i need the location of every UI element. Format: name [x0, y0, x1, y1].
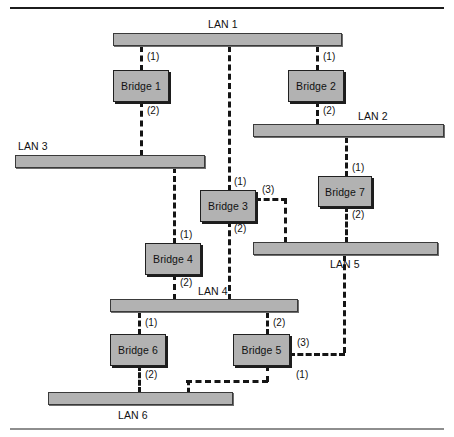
bridge-node-bridge3[interactable]: Bridge 3 — [200, 190, 256, 222]
bridge-label: Bridge 3 — [208, 200, 248, 212]
bridge-node-bridge4[interactable]: Bridge 4 — [145, 243, 201, 275]
port-label-bridge1-port1: (1) — [147, 51, 159, 62]
port-label-bridge3-port3: (3) — [262, 184, 274, 195]
top-divider-rule — [10, 7, 444, 9]
lan-label-lan4: LAN 4 — [198, 285, 228, 297]
lan-segment-lan5[interactable] — [253, 242, 438, 255]
bridge-label: Bridge 5 — [242, 344, 282, 356]
bridge-node-bridge2[interactable]: Bridge 2 — [288, 70, 344, 102]
port-label-bridge5-port2: (2) — [273, 317, 285, 328]
link-bridge4-lan4 — [173, 274, 176, 300]
bridge-label: Bridge 6 — [118, 344, 158, 356]
bridge-node-bridge5[interactable]: Bridge 5 — [233, 334, 290, 366]
lan-segment-lan2[interactable] — [253, 124, 444, 137]
link-bridge6-lan6 — [138, 365, 141, 393]
bridge-node-bridge6[interactable]: Bridge 6 — [110, 334, 166, 366]
lan-segment-lan6[interactable] — [48, 392, 233, 405]
bridge-label: Bridge 4 — [153, 253, 193, 265]
port-label-bridge6-port1: (1) — [145, 317, 157, 328]
lan-segment-lan1[interactable] — [113, 33, 342, 46]
port-label-bridge5-port1: (1) — [296, 369, 308, 380]
link-bridge2-lan2 — [316, 101, 319, 125]
bridge-label: Bridge 7 — [325, 186, 365, 198]
port-label-bridge3-port2: (2) — [234, 223, 246, 234]
lan-label-lan6: LAN 6 — [118, 409, 148, 421]
link-lan1-bridge2 — [316, 46, 319, 71]
link-bridge3-lan4 — [228, 221, 231, 300]
link-bridge3-port3-drop — [284, 198, 287, 243]
port-label-bridge4-port1: (1) — [180, 229, 192, 240]
bottom-divider-rule — [10, 428, 444, 430]
lan-label-lan3: LAN 3 — [18, 140, 48, 152]
link-lan4-bridge5 — [266, 312, 269, 335]
port-label-bridge5-port3: (3) — [297, 337, 309, 348]
link-lan1-bridge3 — [228, 46, 231, 191]
link-lan3-bridge4 — [173, 167, 176, 244]
link-bridge3-port3-arm — [255, 198, 287, 201]
link-bridge7-lan5 — [345, 206, 348, 243]
port-label-bridge4-port2: (2) — [180, 277, 192, 288]
network-diagram: Bridge 1Bridge 2Bridge 3Bridge 4Bridge 5… — [0, 0, 454, 437]
port-label-bridge2-port2: (2) — [323, 105, 335, 116]
lan-label-lan5: LAN 5 — [330, 258, 360, 270]
port-label-bridge1-port2: (2) — [147, 105, 159, 116]
port-label-bridge7-port1: (1) — [352, 162, 364, 173]
bridge-node-bridge1[interactable]: Bridge 1 — [113, 70, 169, 102]
port-label-bridge2-port1: (1) — [323, 51, 335, 62]
lan-label-lan1: LAN 1 — [208, 18, 238, 30]
link-bridge1-lan3 — [140, 101, 143, 156]
link-lan4-bridge6 — [138, 312, 141, 335]
bridge-label: Bridge 2 — [296, 80, 336, 92]
link-lan2-bridge7 — [345, 137, 348, 177]
bridge-label: Bridge 1 — [121, 80, 161, 92]
bridge-node-bridge7[interactable]: Bridge 7 — [318, 176, 372, 207]
port-label-bridge7-port2: (2) — [352, 209, 364, 220]
lan-segment-lan4[interactable] — [110, 299, 298, 312]
link-lan1-bridge1 — [140, 46, 143, 71]
port-label-bridge3-port1: (1) — [234, 176, 246, 187]
link-bridge5-port1-arm — [186, 380, 268, 383]
port-label-bridge6-port2: (2) — [145, 369, 157, 380]
lan-segment-lan3[interactable] — [15, 155, 205, 168]
lan-label-lan2: LAN 2 — [358, 110, 388, 122]
link-bridge5-port3-arm — [289, 353, 345, 356]
